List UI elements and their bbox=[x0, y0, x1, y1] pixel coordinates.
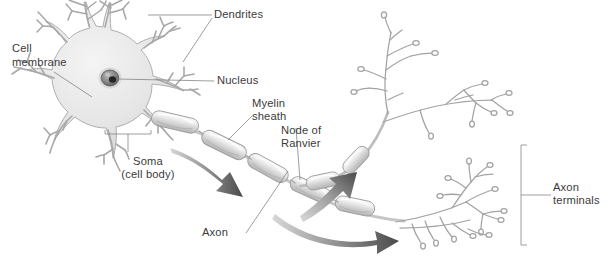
label-soma-line2: (cell body) bbox=[108, 168, 188, 182]
soma-group bbox=[12, 0, 200, 171]
label-axon-terminals-line2: terminals bbox=[553, 194, 600, 208]
neuron-diagram-figure: Dendrites Cell membrane Nucleus Myelin s… bbox=[0, 0, 610, 269]
label-cell-membrane-line2: membrane bbox=[12, 56, 67, 70]
label-node-of-ranvier-line1: Node of bbox=[281, 124, 321, 138]
axon-terminals-top bbox=[351, 12, 438, 114]
axon-terminals-upper-right bbox=[383, 81, 513, 139]
dendrite-branches-upper-right bbox=[144, 17, 180, 48]
dendrite-branches-upper-left bbox=[66, 0, 106, 26]
label-myelin-sheath-line2: sheath bbox=[252, 110, 287, 124]
label-axon: Axon bbox=[202, 226, 228, 240]
axon-group bbox=[150, 109, 404, 221]
label-node-of-ranvier-line2: Ranvier bbox=[281, 137, 321, 151]
label-cell-membrane-line1: Cell bbox=[12, 42, 32, 56]
axon-terminals-bottom bbox=[396, 158, 507, 249]
nucleus-shape bbox=[99, 68, 122, 89]
label-soma-line1: Soma bbox=[108, 155, 188, 169]
leader-myelin bbox=[228, 116, 252, 140]
label-myelin-sheath-line1: Myelin bbox=[252, 97, 285, 111]
label-axon-terminals-line1: Axon bbox=[553, 181, 579, 195]
label-nucleus: Nucleus bbox=[217, 74, 258, 88]
arrow-3 bbox=[272, 214, 399, 254]
label-dendrites: Dendrites bbox=[214, 8, 263, 22]
dendrite-branches-right bbox=[156, 67, 200, 95]
dendrite-branches-upper-left-diag bbox=[37, 12, 67, 42]
leader-dendrites-lower bbox=[183, 18, 212, 62]
